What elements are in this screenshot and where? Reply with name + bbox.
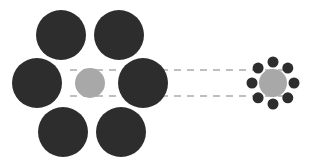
inducer-sw [253, 92, 264, 103]
inducer-n [268, 57, 279, 68]
target-circle-right [259, 69, 287, 97]
small-inducers-cluster [247, 57, 300, 110]
inducer-top-left [36, 10, 86, 60]
ebbinghaus-illusion-figure [0, 0, 311, 165]
illusion-canvas [0, 0, 311, 165]
inducer-middle-left [12, 58, 62, 108]
inducer-ne [282, 63, 293, 74]
inducer-w [247, 78, 258, 89]
inducer-e [289, 78, 300, 89]
inducer-top-right [94, 10, 144, 60]
target-circle-left [75, 68, 105, 98]
inducer-se [282, 92, 293, 103]
inducer-nw [253, 63, 264, 74]
inducer-middle-right [118, 58, 168, 108]
inducer-s [268, 99, 279, 110]
inducer-bottom-left [38, 107, 88, 157]
inducer-bottom-right [96, 107, 146, 157]
